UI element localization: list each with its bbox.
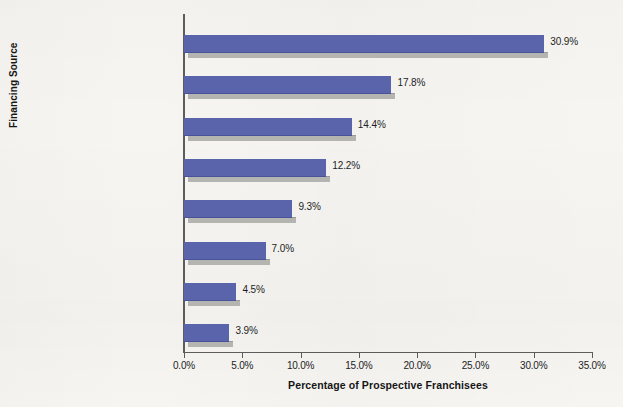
bar-value-label: 3.9% (235, 325, 257, 336)
bar-value-label: 4.5% (242, 284, 264, 295)
x-axis-tick-label: 20.0% (403, 360, 430, 371)
bar-fill[interactable] (184, 283, 236, 301)
x-axis-tick (592, 352, 593, 358)
x-axis-tick (359, 352, 360, 358)
bar-value-label: 12.2% (332, 160, 360, 171)
x-axis-tick (242, 352, 243, 358)
bar-fill[interactable] (184, 35, 544, 53)
bar-row[interactable]: 4.5%Angel investor (184, 283, 296, 305)
bar-value-label: 14.4% (358, 119, 386, 130)
x-axis-tick-label: 5.0% (231, 360, 253, 371)
bar-fill[interactable] (184, 159, 326, 177)
x-axis-title: Percentage of Prospective Franchisees (184, 379, 592, 391)
x-axis-tick (417, 352, 418, 358)
x-axis-tick (534, 352, 535, 358)
x-axis-line (184, 352, 592, 353)
x-axis-tick (184, 352, 185, 358)
x-axis-tick (475, 352, 476, 358)
x-axis-tick-label: 15.0% (345, 360, 372, 371)
bar-value-label: 17.8% (397, 77, 425, 88)
bar-row[interactable]: 7.0%Credit union loan (184, 242, 326, 264)
bar-row[interactable]: 12.2%Family and friends (184, 159, 386, 181)
chart-canvas: Financing Source 30.9%Personal savings/r… (0, 0, 623, 407)
bar-row[interactable]: 9.3%Grants (184, 200, 352, 222)
bar-row[interactable]: 30.9%Personal savings/retirement account (184, 35, 604, 57)
bar-value-label: 30.9% (550, 36, 578, 47)
bar-row[interactable]: 3.9%Credit cards (184, 324, 289, 346)
x-axis-tick-label: 0.0% (173, 360, 195, 371)
x-axis-tick-label: 25.0% (462, 360, 489, 371)
bar-fill[interactable] (184, 324, 229, 342)
bar-fill[interactable] (184, 242, 266, 260)
bar-row[interactable]: 17.8%Commercial bank loan (184, 76, 451, 98)
x-axis-tick-label: 10.0% (287, 360, 314, 371)
bar-fill[interactable] (184, 200, 292, 218)
bar-value-label: 7.0% (272, 243, 294, 254)
bar-fill[interactable] (184, 118, 352, 136)
bar-value-label: 9.3% (298, 201, 320, 212)
bar-fill[interactable] (184, 76, 391, 94)
x-axis-tick-label: 35.0% (578, 360, 605, 371)
bar-row[interactable]: 14.4%SBA loan (184, 118, 412, 140)
x-axis-tick-label: 30.0% (520, 360, 547, 371)
x-axis-tick (301, 352, 302, 358)
y-axis-title: Financing Source (8, 42, 19, 128)
